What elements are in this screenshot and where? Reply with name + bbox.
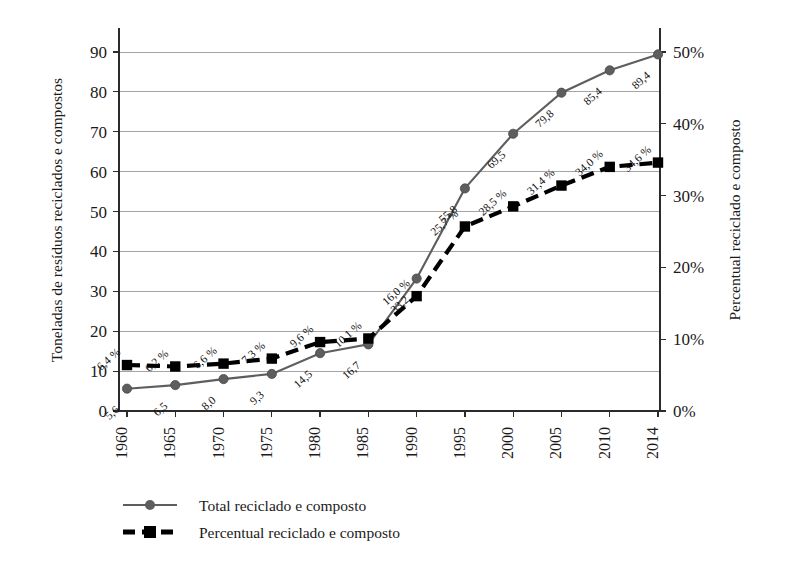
left-axis-tick-label: 70 xyxy=(90,123,107,142)
legend-marker-square xyxy=(144,526,156,538)
left-axis-tick-label: 90 xyxy=(90,43,107,62)
right-axis-title: Percentual reciclado e composto xyxy=(726,119,743,320)
x-axis-tick-label: 2000 xyxy=(499,427,516,459)
right-axis-tick-label: 50% xyxy=(673,43,704,62)
data-point-marker xyxy=(508,201,518,211)
legend-label: Total reciclado e composto xyxy=(199,497,366,514)
x-axis-tick-label: 1985 xyxy=(354,427,371,459)
left-axis-title: Toneladas de resíduos reciclados e compo… xyxy=(48,78,65,362)
x-axis-tick-label: 1995 xyxy=(451,427,468,459)
data-point-marker xyxy=(363,333,373,343)
data-point-marker xyxy=(219,374,228,383)
data-point-marker xyxy=(412,274,421,283)
data-point-marker xyxy=(460,221,470,231)
data-point-marker xyxy=(315,349,324,358)
x-axis-tick-label: 1980 xyxy=(306,427,323,459)
left-axis-tick-label: 80 xyxy=(90,83,107,102)
data-point-marker xyxy=(267,353,277,363)
x-axis-tick-label: 1965 xyxy=(161,427,178,459)
data-point-marker xyxy=(171,380,180,389)
x-axis-tick-label: 1975 xyxy=(258,427,275,459)
data-point-marker xyxy=(460,184,469,193)
x-axis-tick-label: 1970 xyxy=(210,427,227,459)
right-axis-tick-label: 40% xyxy=(673,115,704,134)
data-point-marker xyxy=(556,180,566,190)
data-point-marker xyxy=(218,358,228,368)
right-axis-tick-label: 10% xyxy=(673,330,704,349)
chart-svg: 0102030405060708090 0%10%20%30%40%50% 19… xyxy=(0,0,785,578)
data-point-marker xyxy=(122,360,132,370)
data-point-marker xyxy=(315,337,325,347)
data-point-marker xyxy=(411,291,421,301)
data-point-marker xyxy=(122,384,131,393)
left-axis-tick-label: 50 xyxy=(90,203,107,222)
left-axis-tick-label: 60 xyxy=(90,163,107,182)
chart-container: 0102030405060708090 0%10%20%30%40%50% 19… xyxy=(0,0,785,578)
x-axis-tick-label: 2014 xyxy=(644,427,661,459)
x-axis-tick-label: 2005 xyxy=(547,427,564,459)
x-axis-tick-label: 1990 xyxy=(403,427,420,459)
data-point-marker xyxy=(509,129,518,138)
data-point-marker xyxy=(653,157,663,167)
left-axis-tick-label: 30 xyxy=(90,282,107,301)
x-axis-tick-label: 1960 xyxy=(113,427,130,459)
right-axis-tick-label: 0% xyxy=(673,402,696,421)
data-point-marker xyxy=(653,50,662,59)
data-point-marker xyxy=(267,369,276,378)
legend-label: Percentual reciclado e composto xyxy=(199,524,400,541)
data-point-marker xyxy=(605,162,615,172)
left-axis-tick-label: 20 xyxy=(90,322,107,341)
left-axis-tick-label: 40 xyxy=(90,242,107,261)
x-axis-tick-label: 2010 xyxy=(596,427,613,459)
data-point-marker xyxy=(557,88,566,97)
right-axis-tick-label: 20% xyxy=(673,258,704,277)
data-point-marker xyxy=(605,66,614,75)
legend-marker-circle xyxy=(145,500,155,510)
right-axis-tick-label: 30% xyxy=(673,187,704,206)
data-point-marker xyxy=(170,361,180,371)
